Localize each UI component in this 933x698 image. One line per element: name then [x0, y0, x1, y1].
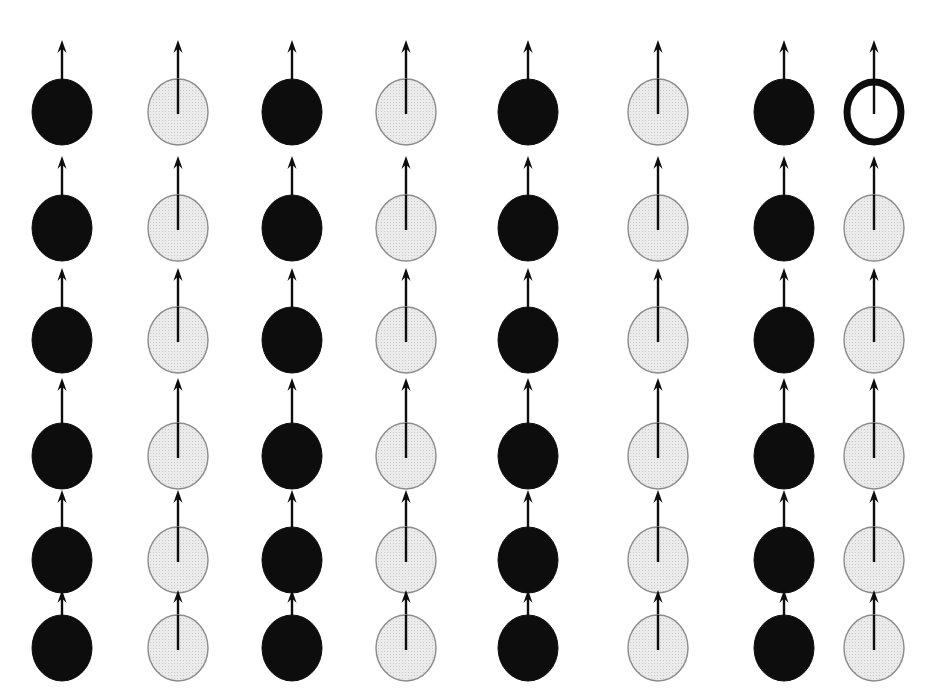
lattice-site-black [498, 490, 558, 593]
lattice-site-grey [148, 40, 208, 145]
lattice-site-black [498, 156, 558, 261]
lattice-site-black [262, 268, 322, 373]
lattice-site-grey [148, 590, 208, 681]
lattice-site-black [754, 40, 814, 145]
lattice-site-black [262, 40, 322, 145]
sphere-black [32, 307, 92, 373]
sphere-black [262, 195, 322, 261]
lattice-site-grey [628, 590, 688, 681]
lattice-site-grey [844, 378, 904, 489]
sphere-black [262, 615, 322, 681]
lattice-site-black [262, 490, 322, 593]
sphere-black [32, 79, 92, 145]
lattice-site-grey [628, 40, 688, 145]
lattice-site-open [847, 40, 901, 142]
lattice-site-grey [844, 590, 904, 681]
lattice-site-grey [148, 490, 208, 593]
sphere-black [754, 615, 814, 681]
sphere-black [754, 79, 814, 145]
sphere-black [498, 615, 558, 681]
lattice-site-grey [148, 156, 208, 261]
lattice-site-grey [376, 490, 436, 593]
lattice-site-black [32, 268, 92, 373]
sphere-black [754, 195, 814, 261]
lattice-site-black [262, 590, 322, 681]
lattice-site-black [498, 40, 558, 145]
lattice-site-black [32, 40, 92, 145]
sphere-black [498, 423, 558, 489]
sphere-black [498, 79, 558, 145]
lattice-site-black [754, 156, 814, 261]
lattice-site-black [32, 490, 92, 593]
lattice-site-black [754, 378, 814, 489]
sphere-black [262, 527, 322, 593]
sphere-black [32, 615, 92, 681]
lattice-site-black [754, 490, 814, 593]
sphere-black [754, 527, 814, 593]
lattice-site-black [754, 590, 814, 681]
lattice-site-black [32, 378, 92, 489]
sphere-black [262, 307, 322, 373]
lattice-site-black [32, 590, 92, 681]
lattice-site-black [498, 378, 558, 489]
lattice-site-grey [844, 268, 904, 373]
sphere-black [498, 195, 558, 261]
sphere-black [754, 307, 814, 373]
lattice-site-grey [148, 378, 208, 489]
sphere-black [498, 307, 558, 373]
lattice-canvas [0, 0, 933, 698]
lattice-site-grey [376, 40, 436, 145]
lattice-site-grey [628, 490, 688, 593]
sphere-black [754, 423, 814, 489]
lattice-site-black [32, 156, 92, 261]
lattice-site-grey [628, 268, 688, 373]
lattice-site-black [262, 156, 322, 261]
lattice-site-grey [844, 156, 904, 261]
lattice-site-grey [628, 156, 688, 261]
lattice-site-grey [376, 156, 436, 261]
lattice-site-grey [844, 490, 904, 593]
sphere-black [32, 527, 92, 593]
lattice-site-grey [148, 268, 208, 373]
lattice-site-grey [376, 378, 436, 489]
lattice-site-black [754, 268, 814, 373]
spin-lattice-figure [0, 0, 933, 698]
sphere-black [498, 527, 558, 593]
lattice-site-grey [376, 590, 436, 681]
sphere-black [32, 423, 92, 489]
sphere-black [262, 423, 322, 489]
lattice-site-grey [628, 378, 688, 489]
sphere-black [262, 79, 322, 145]
lattice-site-black [262, 378, 322, 489]
lattice-site-black [498, 268, 558, 373]
lattice-site-black [498, 590, 558, 681]
sphere-black [32, 195, 92, 261]
lattice-site-grey [376, 268, 436, 373]
